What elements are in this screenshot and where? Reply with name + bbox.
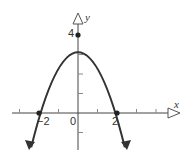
parabola-graph: −2 0 2 4 y x [0,0,190,158]
label-origin: 0 [70,115,76,127]
x-axis-label: x [173,98,179,110]
label-y-4: 4 [68,27,74,39]
y-axis-label: y [84,11,90,23]
point-vertex [75,32,80,37]
y-axis-arrow-icon [73,13,83,24]
label-x-pos2: 2 [112,115,118,127]
y-ticks [78,55,83,133]
label-x-neg2: −2 [37,115,50,127]
